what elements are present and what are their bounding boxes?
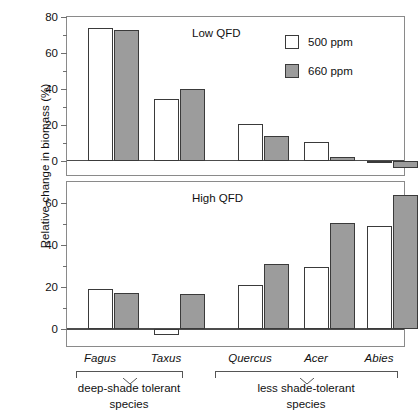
- group-caption-line2: species: [257, 397, 354, 410]
- bracket-cap-left: [76, 371, 77, 378]
- y-tick-minor: [63, 224, 67, 225]
- bar-quercus-500-ppm: [238, 124, 263, 161]
- bracket-cap-right: [182, 371, 183, 378]
- y-axis-title: Relative change in biomass (%): [39, 36, 51, 296]
- y-tick-label: 40: [45, 239, 58, 251]
- y-tick-label: 40: [45, 83, 58, 95]
- y-tick-major: [61, 329, 67, 330]
- y-tick-label: 80: [45, 11, 58, 23]
- legend-swatch-open-icon: [285, 35, 299, 49]
- group-caption-less-shade: less shade-tolerant species: [257, 381, 354, 410]
- y-tick-minor: [63, 107, 67, 108]
- bar-quercus-660-ppm: [264, 136, 289, 161]
- bar-abies-660-ppm: [393, 195, 418, 330]
- bar-fagus-660-ppm: [114, 30, 139, 161]
- group-caption-line1: less shade-tolerant: [257, 381, 354, 397]
- y-tick-label: 0: [52, 323, 58, 335]
- bar-fagus-660-ppm: [114, 293, 139, 329]
- y-tick-label: 60: [45, 47, 58, 59]
- bar-acer-660-ppm: [330, 157, 355, 161]
- y-tick-label: 60: [45, 197, 58, 209]
- species-label-quercus: Quercus: [228, 352, 271, 364]
- legend-label-660ppm: 660 ppm: [308, 65, 353, 77]
- y-tick-major: [61, 245, 67, 246]
- bar-acer-500-ppm: [304, 142, 329, 161]
- bar-taxus-660-ppm: [180, 89, 205, 161]
- y-tick-minor: [63, 35, 67, 36]
- panel-title-high-qfd: High QFD: [192, 192, 243, 204]
- y-tick-minor: [63, 308, 67, 309]
- legend-swatch-filled-icon: [285, 64, 299, 78]
- bracket-cap-right: [397, 371, 398, 378]
- bar-acer-500-ppm: [304, 267, 329, 329]
- y-tick-minor: [63, 71, 67, 72]
- y-tick-major: [61, 161, 67, 162]
- panel-low-qfd: 020406080 Low QFD 500 ppm 660 ppm: [66, 16, 405, 176]
- group-caption-line2: species: [78, 397, 180, 410]
- bar-taxus-500-ppm: [154, 99, 179, 161]
- bar-quercus-500-ppm: [238, 285, 263, 329]
- species-label-abies: Abies: [365, 352, 394, 364]
- legend-item-500ppm: 500 ppm: [285, 35, 353, 49]
- y-tick-label: 0: [52, 155, 58, 167]
- y-tick-major: [61, 53, 67, 54]
- bracket-cap-left: [215, 371, 216, 378]
- y-tick-major: [61, 17, 67, 18]
- bar-fagus-500-ppm: [88, 289, 113, 329]
- bar-abies-500-ppm: [367, 226, 392, 329]
- panel-title-low-qfd: Low QFD: [192, 27, 241, 39]
- bar-abies-500-ppm: [367, 161, 392, 163]
- bar-fagus-500-ppm: [88, 28, 113, 161]
- group-caption-line1: deep-shade tolerant: [78, 381, 180, 397]
- plot-area-low-qfd: 020406080: [67, 17, 404, 175]
- y-tick-major: [61, 203, 67, 204]
- y-tick-major: [61, 89, 67, 90]
- panel-high-qfd: 0204060 High QFD: [66, 181, 405, 347]
- legend-label-500ppm: 500 ppm: [308, 36, 353, 48]
- legend-item-660ppm: 660 ppm: [285, 64, 353, 78]
- bar-acer-660-ppm: [330, 223, 355, 329]
- y-tick-major: [61, 287, 67, 288]
- bar-quercus-660-ppm: [264, 264, 289, 329]
- plot-area-high-qfd: 0204060: [67, 182, 404, 346]
- group-caption-deep-shade: deep-shade tolerant species: [78, 381, 180, 410]
- y-tick-major: [61, 125, 67, 126]
- bar-taxus-660-ppm: [180, 294, 205, 329]
- species-label-fagus: Fagus: [84, 352, 116, 364]
- y-tick-minor: [63, 266, 67, 267]
- y-tick-label: 20: [45, 281, 58, 293]
- y-tick-minor: [63, 143, 67, 144]
- bar-taxus-500-ppm: [154, 329, 179, 335]
- species-label-acer: Acer: [304, 352, 328, 364]
- y-tick-label: 20: [45, 119, 58, 131]
- species-label-taxus: Taxus: [151, 352, 181, 364]
- bar-abies-660-ppm: [393, 161, 418, 168]
